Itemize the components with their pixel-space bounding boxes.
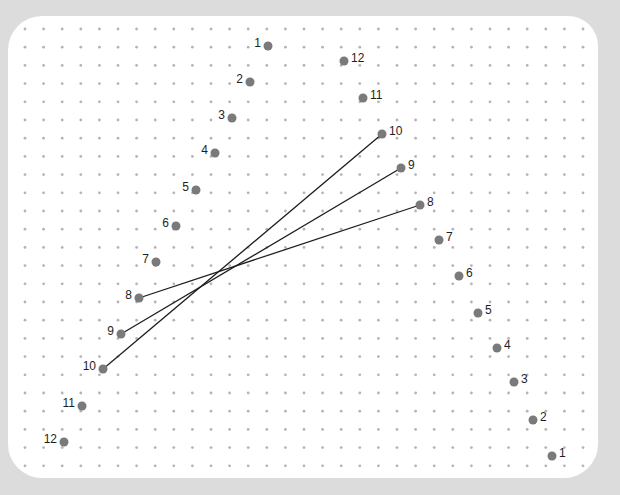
grid-dot (582, 173, 585, 176)
grid-dot (507, 228, 510, 231)
point-dot[interactable] (192, 186, 201, 195)
point-dot[interactable] (378, 130, 387, 139)
point-dot[interactable] (435, 236, 444, 245)
right-point-1[interactable]: 1 (548, 446, 567, 461)
grid-dot (340, 301, 343, 304)
point-dot[interactable] (135, 294, 144, 303)
grid-dot (172, 119, 175, 122)
left-point-11[interactable]: 11 (63, 396, 87, 411)
dot-grid-board[interactable]: 123456789101112121110987654321 (0, 0, 620, 495)
grid-dot (42, 82, 45, 85)
point-dot[interactable] (264, 42, 273, 51)
point-label: 1 (254, 36, 261, 50)
grid-dot (191, 100, 194, 103)
point-dot[interactable] (152, 258, 161, 267)
grid-dot (24, 410, 27, 413)
grid-dot (470, 246, 473, 249)
grid-dot (340, 319, 343, 322)
right-point-10[interactable]: 10 (378, 124, 403, 139)
grid-dot (358, 428, 361, 431)
left-point-1[interactable]: 1 (254, 36, 272, 51)
left-point-7[interactable]: 7 (142, 252, 160, 267)
grid-dot (172, 64, 175, 67)
grid-dot (79, 64, 82, 67)
left-point-10[interactable]: 10 (83, 359, 108, 374)
left-point-2[interactable]: 2 (236, 72, 254, 87)
grid-dot (470, 191, 473, 194)
grid-dot (433, 246, 436, 249)
left-point-3[interactable]: 3 (218, 108, 236, 123)
grid-dot (507, 373, 510, 376)
grid-dot (24, 82, 27, 85)
grid-dot (321, 301, 324, 304)
grid-dot (489, 100, 492, 103)
grid-dot (117, 173, 120, 176)
grid-dot (42, 282, 45, 285)
right-point-11[interactable]: 11 (359, 88, 383, 103)
grid-dot (340, 46, 343, 49)
grid-dot (414, 392, 417, 395)
grid-dot (61, 301, 64, 304)
grid-dot (61, 392, 64, 395)
point-dot[interactable] (172, 222, 181, 231)
grid-dot (154, 282, 157, 285)
grid-dot (247, 337, 250, 340)
point-dot[interactable] (359, 94, 368, 103)
right-point-7[interactable]: 7 (435, 230, 454, 245)
grid-dot (61, 28, 64, 31)
grid-dot (358, 46, 361, 49)
point-dot[interactable] (529, 416, 538, 425)
left-point-9[interactable]: 9 (107, 324, 125, 339)
right-point-3[interactable]: 3 (510, 372, 529, 387)
right-point-4[interactable]: 4 (493, 338, 512, 353)
grid-dot (24, 155, 27, 158)
point-dot[interactable] (340, 57, 349, 66)
grid-dot (340, 410, 343, 413)
grid-dot (563, 301, 566, 304)
right-point-6[interactable]: 6 (455, 266, 474, 281)
grid-dot (358, 82, 361, 85)
grid-dot (42, 319, 45, 322)
grid-dot (321, 264, 324, 267)
point-dot[interactable] (455, 272, 464, 281)
point-dot[interactable] (99, 365, 108, 374)
left-point-8[interactable]: 8 (125, 288, 143, 303)
right-point-2[interactable]: 2 (529, 410, 548, 425)
left-point-12[interactable]: 12 (44, 432, 69, 447)
point-dot[interactable] (246, 78, 255, 87)
right-point-12[interactable]: 12 (340, 51, 365, 66)
grid-dot (303, 64, 306, 67)
point-dot[interactable] (493, 344, 502, 353)
point-dot[interactable] (78, 402, 87, 411)
grid-dot (303, 46, 306, 49)
grid-dot (172, 191, 175, 194)
grid-dot (265, 373, 268, 376)
point-dot[interactable] (474, 309, 483, 318)
right-point-9[interactable]: 9 (397, 158, 416, 173)
grid-dot (396, 319, 399, 322)
point-dot[interactable] (211, 149, 220, 158)
left-point-6[interactable]: 6 (162, 216, 180, 231)
grid-dot (191, 373, 194, 376)
point-dot[interactable] (548, 452, 557, 461)
point-dot[interactable] (510, 378, 519, 387)
point-dot[interactable] (228, 114, 237, 123)
grid-dot (284, 210, 287, 213)
grid-dot (210, 82, 213, 85)
grid-dot (470, 46, 473, 49)
right-point-5[interactable]: 5 (474, 303, 493, 318)
grid-dot (98, 64, 101, 67)
point-label: 1 (559, 446, 566, 460)
grid-dot (135, 28, 138, 31)
grid-dot (154, 46, 157, 49)
point-dot[interactable] (117, 330, 126, 339)
grid-dot (117, 191, 120, 194)
right-point-8[interactable]: 8 (416, 195, 435, 210)
point-dot[interactable] (60, 438, 69, 447)
point-dot[interactable] (416, 201, 425, 210)
grid-dot (544, 82, 547, 85)
point-dot[interactable] (397, 164, 406, 173)
grid-dot (544, 210, 547, 213)
grid-dot (433, 137, 436, 140)
grid-dot (265, 155, 268, 158)
